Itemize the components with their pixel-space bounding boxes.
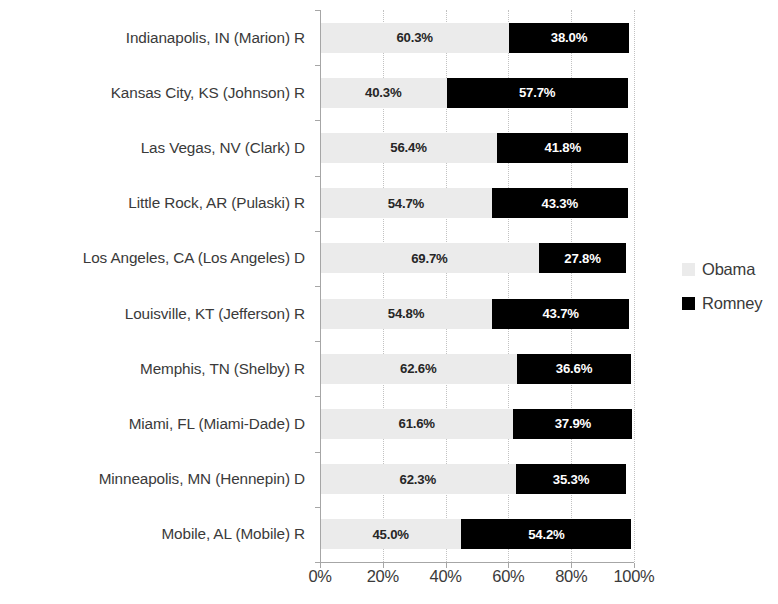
bar-segment-romney[interactable]: 57.7% bbox=[447, 78, 628, 108]
bar-segment-romney[interactable]: 38.0% bbox=[509, 23, 628, 53]
x-axis-line bbox=[320, 562, 634, 563]
bar-segment-romney[interactable]: 37.9% bbox=[513, 409, 632, 439]
bar-value-label-romney: 57.7% bbox=[519, 86, 555, 99]
plot-area: 60.3%38.0%40.3%57.7%56.4%41.8%54.7%43.3%… bbox=[320, 10, 634, 562]
bar-segment-romney[interactable]: 36.6% bbox=[517, 354, 632, 384]
bar-value-label-romney: 43.3% bbox=[542, 197, 578, 210]
bar-value-label-romney: 36.6% bbox=[556, 362, 592, 375]
bar-value-label-romney: 43.7% bbox=[542, 307, 578, 320]
x-axis-tick-labels: 0%20%40%60%80%100% bbox=[320, 568, 634, 594]
legend-item-obama[interactable]: Obama bbox=[682, 256, 778, 282]
x-axis-tick-label: 20% bbox=[367, 568, 399, 585]
bar-value-label-romney: 27.8% bbox=[564, 252, 600, 265]
gridline-100 bbox=[634, 10, 635, 562]
category-label: Las Vegas, NV (Clark) D bbox=[0, 140, 305, 155]
bar-segment-romney[interactable]: 35.3% bbox=[516, 464, 627, 494]
bar-value-label-romney: 41.8% bbox=[545, 141, 581, 154]
stacked-bar-chart: Indianapolis, IN (Marion) RKansas City, … bbox=[0, 0, 778, 604]
bar-segment-romney[interactable]: 43.3% bbox=[492, 188, 628, 218]
y-axis-category-labels: Indianapolis, IN (Marion) RKansas City, … bbox=[0, 10, 305, 562]
bar-row: 69.7%27.8% bbox=[320, 243, 634, 273]
bar-value-label-romney: 54.2% bbox=[528, 528, 564, 541]
bar-value-label-obama: 62.6% bbox=[400, 362, 436, 375]
bar-value-label-romney: 38.0% bbox=[551, 31, 587, 44]
category-label: Miami, FL (Miami-Dade) D bbox=[0, 416, 305, 431]
legend-item-romney[interactable]: Romney bbox=[682, 290, 778, 316]
x-axis-tick-label: 100% bbox=[613, 568, 654, 585]
bar-value-label-romney: 35.3% bbox=[553, 473, 589, 486]
bar-value-label-obama: 61.6% bbox=[399, 417, 435, 430]
bar-row: 54.7%43.3% bbox=[320, 188, 634, 218]
bar-value-label-obama: 40.3% bbox=[365, 86, 401, 99]
bar-value-label-obama: 45.0% bbox=[372, 528, 408, 541]
bar-value-label-obama: 69.7% bbox=[411, 252, 447, 265]
y-axis-line bbox=[320, 10, 321, 563]
x-axis-tick-label: 60% bbox=[492, 568, 524, 585]
legend-swatch-obama bbox=[682, 263, 695, 276]
bar-segment-obama[interactable]: 62.3% bbox=[320, 464, 516, 494]
bar-segment-obama[interactable]: 54.7% bbox=[320, 188, 492, 218]
bar-row: 45.0%54.2% bbox=[320, 519, 634, 549]
bar-segment-obama[interactable]: 40.3% bbox=[320, 78, 447, 108]
x-tick-0 bbox=[320, 563, 321, 568]
x-tick-20 bbox=[383, 563, 384, 568]
bar-segment-obama[interactable]: 69.7% bbox=[320, 243, 539, 273]
category-label: Louisville, KT (Jefferson) R bbox=[0, 306, 305, 321]
chart-legend: ObamaRomney bbox=[682, 256, 778, 324]
bar-segment-obama[interactable]: 54.8% bbox=[320, 299, 492, 329]
bar-row: 62.3%35.3% bbox=[320, 464, 634, 494]
bar-segment-obama[interactable]: 45.0% bbox=[320, 519, 461, 549]
category-label: Minneapolis, MN (Hennepin) D bbox=[0, 471, 305, 486]
bar-value-label-obama: 54.7% bbox=[388, 197, 424, 210]
bar-value-label-obama: 56.4% bbox=[390, 141, 426, 154]
bar-segment-romney[interactable]: 27.8% bbox=[539, 243, 626, 273]
category-label: Kansas City, KS (Johnson) R bbox=[0, 85, 305, 100]
bar-row: 56.4%41.8% bbox=[320, 133, 634, 163]
bar-value-label-obama: 60.3% bbox=[396, 31, 432, 44]
bar-segment-romney[interactable]: 43.7% bbox=[492, 299, 629, 329]
legend-swatch-romney bbox=[682, 297, 695, 310]
bar-value-label-obama: 62.3% bbox=[400, 473, 436, 486]
bar-segment-obama[interactable]: 56.4% bbox=[320, 133, 497, 163]
bar-segment-obama[interactable]: 62.6% bbox=[320, 354, 517, 384]
category-label: Mobile, AL (Mobile) R bbox=[0, 526, 305, 541]
category-label: Los Angeles, CA (Los Angeles) D bbox=[0, 250, 305, 265]
bar-segment-romney[interactable]: 54.2% bbox=[461, 519, 631, 549]
bar-segment-romney[interactable]: 41.8% bbox=[497, 133, 628, 163]
bar-segment-obama[interactable]: 60.3% bbox=[320, 23, 509, 53]
bar-value-label-romney: 37.9% bbox=[555, 417, 591, 430]
category-label: Little Rock, AR (Pulaski) R bbox=[0, 195, 305, 210]
bar-row: 60.3%38.0% bbox=[320, 23, 634, 53]
bar-value-label-obama: 54.8% bbox=[388, 307, 424, 320]
x-tick-40 bbox=[446, 563, 447, 568]
x-axis-tick-label: 40% bbox=[430, 568, 462, 585]
category-label: Memphis, TN (Shelby) R bbox=[0, 361, 305, 376]
bar-row: 40.3%57.7% bbox=[320, 78, 634, 108]
bar-segment-obama[interactable]: 61.6% bbox=[320, 409, 513, 439]
bar-row: 62.6%36.6% bbox=[320, 354, 634, 384]
x-tick-100 bbox=[634, 563, 635, 568]
bar-row: 61.6%37.9% bbox=[320, 409, 634, 439]
category-label: Indianapolis, IN (Marion) R bbox=[0, 30, 305, 45]
bar-row: 54.8%43.7% bbox=[320, 299, 634, 329]
x-axis-tick-label: 80% bbox=[555, 568, 587, 585]
x-axis-tick-label: 0% bbox=[308, 568, 331, 585]
x-tick-60 bbox=[508, 563, 509, 568]
legend-label: Romney bbox=[702, 295, 762, 312]
legend-label: Obama bbox=[702, 261, 755, 278]
x-tick-80 bbox=[571, 563, 572, 568]
